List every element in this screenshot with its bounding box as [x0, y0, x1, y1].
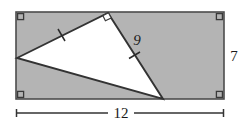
side-length-label-9: 9 [133, 32, 141, 48]
height-dimension-label-7: 7 [230, 48, 238, 64]
width-dimension-label-12: 12 [114, 105, 129, 121]
geometry-figure-container: 9 7 12 [0, 0, 247, 128]
geometry-figure-svg: 9 7 12 [0, 0, 247, 128]
